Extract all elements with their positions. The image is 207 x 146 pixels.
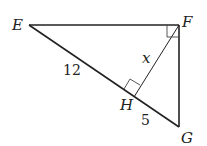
vertex-label-f: F — [181, 13, 193, 31]
measure-fh: x — [142, 49, 151, 67]
altitude-fh — [134, 25, 179, 97]
triangle-diagram: E F G H 12 5 x — [0, 0, 207, 146]
measure-hg: 5 — [141, 112, 150, 128]
vertex-label-h: H — [119, 96, 134, 114]
vertex-label-e: E — [11, 16, 23, 34]
right-angle-mark-h — [124, 79, 140, 89]
measure-eh: 12 — [63, 62, 81, 78]
vertex-label-g: G — [181, 129, 193, 146]
segment-eg — [29, 25, 179, 127]
